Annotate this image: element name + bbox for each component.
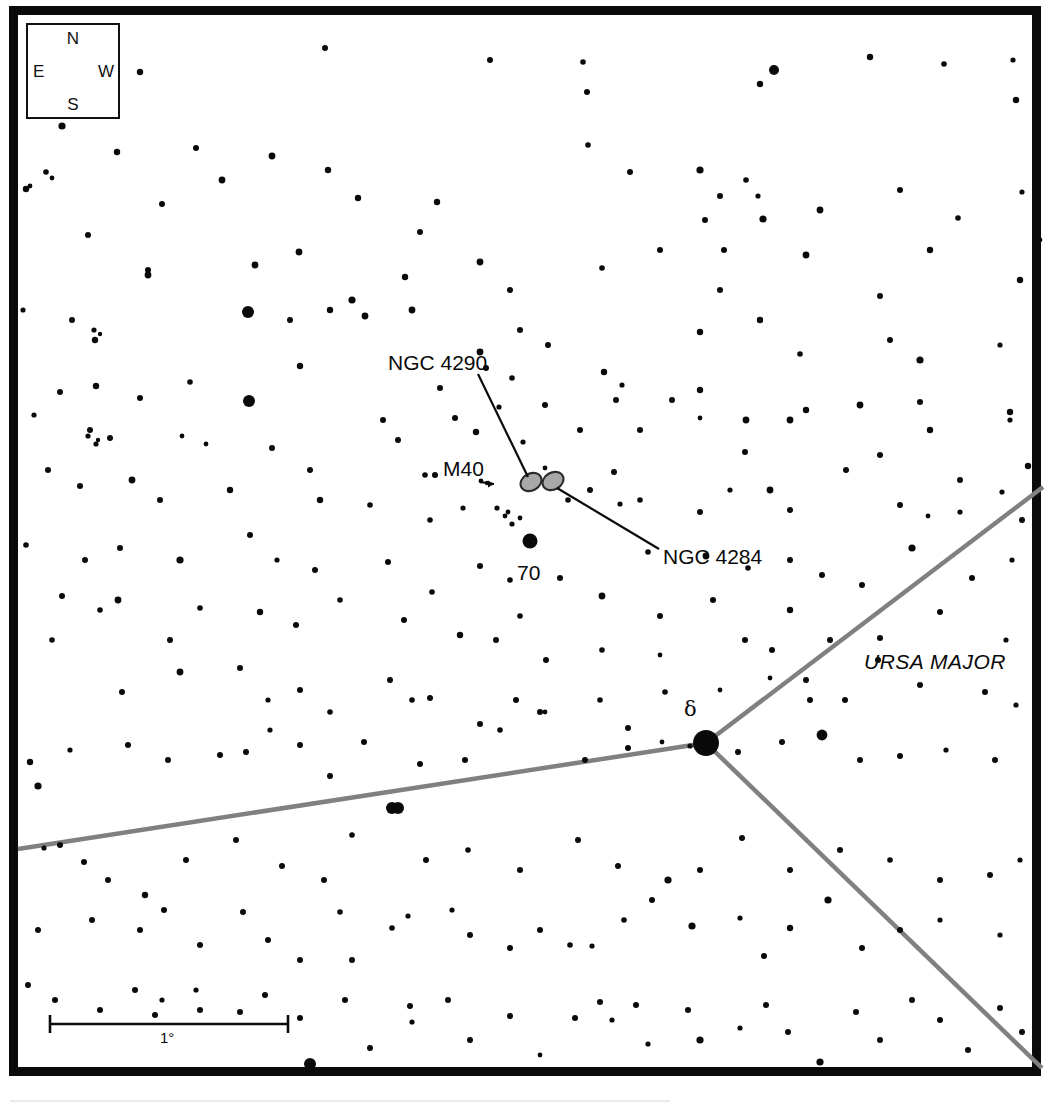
star-dot — [619, 382, 624, 387]
star-dot — [269, 153, 276, 160]
star-dot — [477, 721, 483, 727]
star-dot — [297, 957, 303, 963]
star-dot — [697, 329, 703, 335]
star-dot — [859, 945, 865, 951]
star-dot — [987, 872, 993, 878]
star-dot — [494, 505, 499, 510]
star-dot — [227, 487, 233, 493]
star-dot — [997, 932, 1002, 937]
star-dot — [803, 407, 809, 413]
star-dot — [763, 1002, 769, 1008]
star-dot — [769, 65, 779, 75]
star-dot — [617, 501, 622, 506]
star-dot — [917, 682, 923, 688]
star-dot — [717, 193, 723, 199]
star-dot — [197, 1007, 203, 1013]
star-dot — [627, 169, 633, 175]
star-dot — [584, 89, 590, 95]
compass-rose: N S E W — [26, 23, 120, 119]
star-dot — [687, 743, 692, 748]
star-dot — [585, 142, 591, 148]
star-dot — [20, 307, 25, 312]
star-dot — [597, 999, 603, 1005]
star-dot — [409, 1019, 414, 1024]
star-dot — [803, 252, 810, 259]
star-dot — [180, 434, 185, 439]
label-delta-ursae-majoris: δ — [684, 697, 697, 721]
star-dot — [787, 607, 793, 613]
star-dot — [325, 167, 331, 173]
star-dot — [137, 395, 143, 401]
star-dot — [517, 327, 523, 333]
star-dot — [887, 337, 893, 343]
star-dot — [342, 997, 348, 1003]
star-dot — [87, 427, 93, 433]
star-dot — [327, 773, 333, 779]
star-dot — [23, 542, 29, 548]
scan-artifact — [10, 1100, 670, 1102]
star-dot — [819, 572, 825, 578]
star-dot — [955, 215, 961, 221]
star-dot — [477, 259, 484, 266]
star-dot — [57, 389, 63, 395]
star-dot — [142, 892, 148, 898]
star-dot — [204, 442, 209, 447]
star-dot — [669, 397, 675, 403]
star-dot — [509, 375, 515, 381]
star-dot — [460, 505, 465, 510]
star-dot — [1003, 637, 1008, 642]
star-dot — [409, 697, 415, 703]
star-dot — [159, 201, 165, 207]
star-dot — [297, 687, 303, 693]
star-dot — [927, 247, 933, 253]
star-dot — [367, 1045, 373, 1051]
star-dot — [96, 438, 100, 442]
star-dot — [380, 417, 386, 423]
star-dot — [897, 187, 903, 193]
star-dot — [615, 863, 621, 869]
star-dot — [757, 317, 763, 323]
star-dot — [565, 497, 571, 503]
star-dot — [98, 332, 102, 336]
star-dot — [265, 937, 271, 943]
star-field-group — [20, 45, 1042, 1070]
star-dot — [107, 435, 113, 441]
star-dot — [857, 402, 864, 409]
star-dot — [637, 497, 643, 503]
star-dot — [93, 383, 99, 389]
star-dot — [114, 149, 120, 155]
star-dot — [82, 557, 88, 563]
star-dot — [193, 145, 199, 151]
star-dot — [611, 469, 617, 475]
star-dot — [853, 1009, 859, 1015]
label-ngc-4290: NGC 4290 — [388, 351, 487, 375]
compass-north-label: N — [67, 30, 79, 47]
star-dot — [274, 557, 279, 562]
star-dot — [941, 61, 947, 67]
star-dot — [567, 942, 573, 948]
star-dot — [513, 697, 519, 703]
star-dot — [718, 688, 723, 693]
star-dot — [35, 927, 41, 933]
star-dot — [59, 593, 65, 599]
ngc4284-leader — [557, 488, 659, 549]
star-dot — [537, 709, 543, 715]
star-dot — [77, 483, 83, 489]
star-dot — [507, 945, 513, 951]
star-dot — [321, 877, 327, 883]
star-dot — [317, 497, 323, 503]
star-dot — [457, 632, 463, 638]
star-dot — [449, 907, 454, 912]
star-dot — [34, 782, 41, 789]
star-dot — [297, 742, 303, 748]
star-dot — [27, 759, 33, 765]
star-dot — [757, 81, 763, 87]
star-dot — [252, 262, 259, 269]
star-dot — [787, 925, 793, 931]
star-dot — [742, 637, 748, 643]
star-dot — [401, 617, 407, 623]
star-dot — [543, 710, 548, 715]
star-dot — [81, 859, 87, 865]
star-dot — [817, 730, 828, 741]
star-dot — [908, 544, 915, 551]
